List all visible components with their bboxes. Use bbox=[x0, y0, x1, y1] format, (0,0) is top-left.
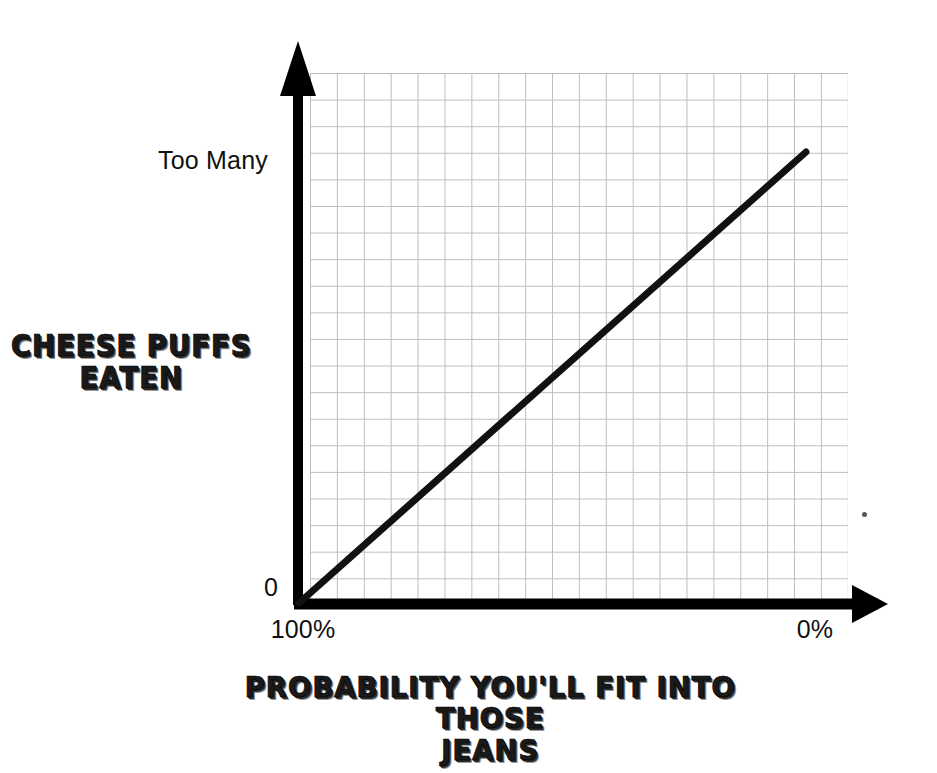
x-axis-tick-label-right: 0% bbox=[760, 615, 870, 644]
x-axis-title: PROBABILITY YOU'LL FIT INTO THOSE JEANS bbox=[205, 672, 775, 766]
y-axis-title: CHEESE PUFFS EATEN bbox=[10, 330, 251, 395]
y-axis-tick-label-zero: 0 bbox=[0, 573, 278, 602]
y-axis-tick-label-top: Too Many bbox=[0, 146, 268, 175]
x-axis-title-line-2: JEANS bbox=[441, 733, 539, 767]
x-axis-title-line-1: PROBABILITY YOU'LL FIT INTO THOSE bbox=[244, 670, 735, 735]
cheese-puffs-chart: Too Many 0 100% 0% CHEESE PUFFS EATEN PR… bbox=[0, 0, 937, 773]
data-series-line bbox=[299, 152, 806, 603]
scan-artifact-speck bbox=[862, 512, 867, 517]
y-axis-arrowhead-icon bbox=[280, 41, 316, 96]
x-axis-tick-label-left: 100% bbox=[248, 615, 358, 644]
